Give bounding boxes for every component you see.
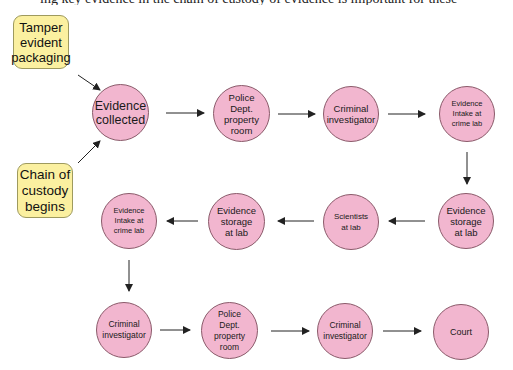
node-evidence-intake: Evidence Intake at crime lab xyxy=(439,86,495,142)
arrows-layer xyxy=(0,0,513,370)
note-label: Chain of custody begins xyxy=(20,167,70,215)
arrow-chain-to-collected xyxy=(78,141,100,163)
node-evidence-storage: Evidence storage at lab xyxy=(208,193,265,250)
node-scientists-at-lab: Scientists at lab xyxy=(323,194,379,250)
node-evidence-storage: Evidence storage at lab xyxy=(438,193,494,249)
node-police-property-room: Police Dept. property room xyxy=(201,302,258,359)
node-evidence-collected: Evidence collected xyxy=(92,84,149,141)
node-police-property-room: Police Dept. property room xyxy=(213,85,270,142)
node-court: Court xyxy=(433,304,489,360)
node-criminal-investigator: Criminal investigator xyxy=(323,86,379,142)
node-criminal-investigator: Criminal investigator xyxy=(96,302,152,358)
node-evidence-intake: Evidence Intake at crime lab xyxy=(101,193,157,249)
note-tamper-evident-packaging: Tamper evident packaging xyxy=(13,15,69,69)
node-criminal-investigator: Criminal investigator xyxy=(317,303,373,359)
arrow-tamper-to-collected xyxy=(78,75,100,90)
note-label: Tamper evident packaging xyxy=(11,20,70,65)
note-chain-of-custody-begins: Chain of custody begins xyxy=(17,163,73,218)
